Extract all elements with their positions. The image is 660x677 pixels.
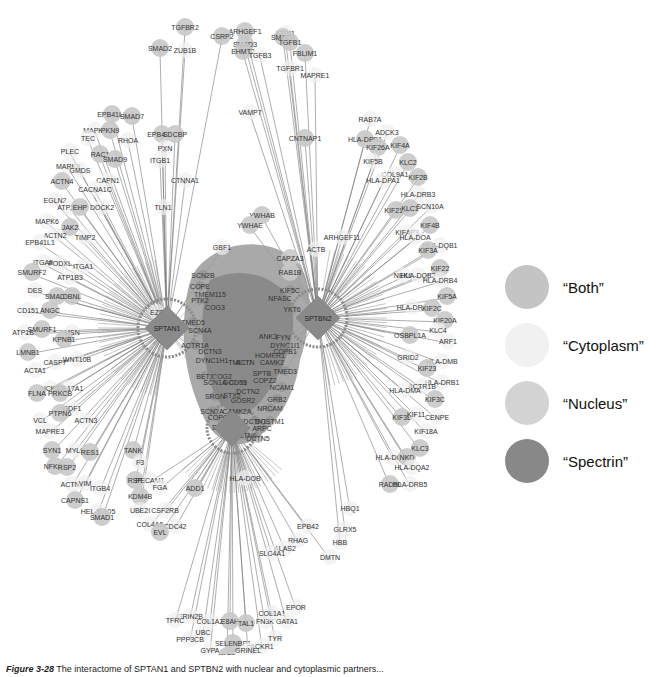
svg-text:ARF1: ARF1 [439,338,457,345]
svg-text:SCN1A: SCN1A [203,379,227,386]
svg-text:UBC: UBC [196,629,211,636]
node: MAPK6 [35,213,59,229]
svg-text:KLF1: KLF1 [219,653,236,656]
svg-text:TIMP2: TIMP2 [75,234,96,241]
svg-text:HLA-DRB5: HLA-DRB5 [393,481,428,488]
svg-text:COPZ2: COPZ2 [253,377,276,384]
node: TEC [80,130,96,146]
svg-text:TFRC: TFRC [166,617,185,624]
node: EVL [151,523,169,541]
svg-text:PKN9: PKN9 [101,127,119,134]
svg-text:NFASC: NFASC [268,295,291,302]
svg-text:KIF2B: KIF2B [408,174,428,181]
svg-text:DES: DES [28,287,43,294]
svg-text:CSF2RB: CSF2RB [151,507,179,514]
node: RSP2 [58,458,76,476]
node: KIF4B [420,216,440,234]
svg-text:SCN10A: SCN10A [416,203,444,210]
svg-text:EPOR: EPOR [286,604,306,611]
svg-text:KIF26A: KIF26A [366,144,390,151]
node: CAPNS1 [61,491,89,509]
svg-text:ITGB1: ITGB1 [150,157,170,164]
svg-text:KIF23: KIF23 [418,365,437,372]
svg-text:TAL1: TAL1 [238,620,254,627]
node: SMAD2 [148,39,172,57]
svg-text:F3: F3 [136,459,144,466]
svg-text:SLC4A1: SLC4A1 [259,550,285,557]
node: FGA [152,479,168,495]
svg-text:TYR: TYR [268,635,282,642]
svg-text:SPTBN2: SPTBN2 [304,315,331,322]
svg-text:MAPRE3: MAPRE3 [36,428,65,435]
caption-text: The interactome of SPTAN1 and SPTBN2 wit… [56,664,383,674]
svg-text:NCAM1: NCAM1 [270,384,295,391]
svg-text:ADD1: ADD1 [186,485,205,492]
svg-text:KIF4A: KIF4A [390,142,410,149]
svg-text:RES1: RES1 [81,449,99,456]
node: F3 [132,454,148,470]
node: PLEC [61,143,79,159]
svg-text:NRCAM: NRCAM [257,405,283,412]
svg-text:SMURF2: SMURF2 [18,269,47,276]
node: CNTNAP1 [289,129,322,147]
svg-text:TEC: TEC [81,135,95,142]
node: KIF2B [408,168,428,186]
svg-text:FBLIM1: FBLIM1 [293,50,318,57]
svg-text:FLNA: FLNA [28,390,46,397]
legend-label: “Both” [563,279,604,296]
svg-text:DBNL: DBNL [63,293,82,300]
legend-nucleus-swatch-icon [505,381,549,425]
svg-text:PTPN6: PTPN6 [49,410,72,417]
node: SYN1 [43,441,61,459]
figure-caption: Figure 3-28 The interactome of SPTAN1 an… [6,664,384,674]
svg-text:YKT6: YKT6 [283,306,301,313]
svg-text:PRKCB: PRKCB [48,390,72,397]
svg-text:HLA-DMA: HLA-DMA [389,387,421,394]
figure-number: Figure 3-28 [6,664,54,674]
svg-text:CD59: CD59 [229,379,247,386]
svg-text:VCL: VCL [33,417,47,424]
svg-text:HLA-DQA2: HLA-DQA2 [394,464,429,472]
node: CSF2RB [151,502,179,518]
node: DES [27,282,43,298]
svg-text:KLC4: KLC4 [429,327,447,334]
node: GRID2 [397,349,419,365]
svg-text:HLA-DRB4: HLA-DRB4 [423,277,458,284]
legend-label: “Nucleus” [563,395,627,412]
svg-text:ANGC: ANGC [40,307,60,314]
svg-text:ACTB: ACTB [307,246,326,253]
svg-text:DOCK2: DOCK2 [90,204,114,211]
node: UBE2I [130,502,150,518]
svg-text:CACNA1C: CACNA1C [78,186,111,193]
svg-text:SCN2B: SCN2B [191,272,215,279]
svg-text:HLA-DRB3: HLA-DRB3 [401,191,436,198]
svg-text:HBQ1: HBQ1 [340,505,359,513]
node: HBB [332,534,348,550]
svg-text:HLA-DOA: HLA-DOA [399,234,430,241]
svg-text:RAB1B: RAB1B [279,269,302,276]
svg-text:RHOA: RHOA [118,137,139,144]
svg-text:DYNC1H1: DYNC1H1 [196,357,229,364]
node: DBNL [63,287,82,305]
svg-text:RHAG: RHAG [288,537,308,544]
svg-text:KDM4B: KDM4B [128,493,152,500]
svg-text:TGFBR1: TGFBR1 [276,65,304,72]
svg-text:CTNNA1: CTNNA1 [171,177,199,184]
node: ZUB1B [174,42,197,58]
node: RAB7A [359,111,382,127]
node: DMTN [320,549,340,565]
node: EHP [71,198,89,216]
svg-text:ACTN3: ACTN3 [75,417,98,424]
svg-text:RSP2: RSP2 [58,464,76,471]
node: CENPE [425,409,449,425]
svg-text:KPNB1: KPNB1 [53,336,76,343]
legend-both-swatch-icon [505,265,549,309]
legend-item-nucleus: “Nucleus” [505,374,660,432]
svg-text:KIF5A: KIF5A [437,293,457,300]
svg-text:KLC3: KLC3 [411,445,429,452]
svg-text:SMURF1: SMURF1 [28,326,57,333]
svg-text:TANK: TANK [124,447,142,454]
svg-text:DCTN3: DCTN3 [198,348,221,355]
node: DOCK2 [90,199,114,215]
svg-text:SYN1: SYN1 [43,447,61,454]
